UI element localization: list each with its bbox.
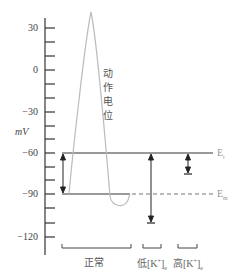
high-k-bracket <box>178 244 197 248</box>
threshold-label-sub: t <box>223 154 225 160</box>
low-k-bracket <box>143 244 161 248</box>
high-k-sub: e <box>200 265 203 271</box>
membrane-label-sub: m <box>223 195 228 201</box>
curve-label-char: 作 <box>103 81 115 95</box>
group-label-normal: 正常 <box>84 258 104 268</box>
low-k-arrow <box>147 154 155 223</box>
normal-bracket <box>62 244 131 248</box>
y-tick-label: 30 <box>8 23 38 33</box>
low-k-sub: e <box>164 265 167 271</box>
low-k-prefix: 低[K <box>137 258 158 269</box>
y-axis-unit: mV <box>15 127 28 137</box>
high-k-prefix: 高[K <box>173 258 194 269</box>
group-label-high-k: 高[K+]e <box>173 258 203 271</box>
y-tick-label: −30 <box>8 107 38 117</box>
normal-arrow <box>61 154 66 193</box>
y-ticks <box>45 28 55 237</box>
y-tick-label: −120 <box>8 232 38 242</box>
action-potential-curve <box>69 12 130 206</box>
group-label-low-k: 低[K+]e <box>137 258 167 271</box>
curve-label-char: 位 <box>103 109 115 123</box>
curve-label-char: 动 <box>103 67 115 81</box>
membrane-label: Em <box>217 189 228 201</box>
action-potential-label: 动 作 电 位 <box>103 67 115 123</box>
high-k-arrow <box>184 154 192 174</box>
threshold-label: Et <box>217 148 225 160</box>
y-tick-label: 0 <box>8 65 38 75</box>
curve-label-char: 电 <box>103 95 115 109</box>
y-tick-label: −60 <box>8 148 38 158</box>
y-tick-label: −90 <box>8 189 38 199</box>
